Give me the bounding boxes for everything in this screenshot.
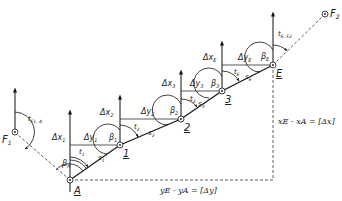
equation-dx: xE - xA = [Δx] <box>278 117 336 126</box>
line-E-F2 <box>273 17 322 65</box>
svg-text:t1: t1 <box>79 148 85 157</box>
svg-text:t2: t2 <box>134 123 140 132</box>
svg-text:tE, F2: tE, F2 <box>278 30 292 39</box>
svg-text:t3: t3 <box>190 95 196 104</box>
point-A <box>67 177 73 183</box>
beta-labels: βA β1 β2 β3 βE <box>61 52 270 169</box>
svg-text:β3: β3 <box>210 79 219 89</box>
traverse-diagram: F1 A 1 2 3 E F2 βA β1 β2 β3 βE tF1, A t1… <box>0 0 342 201</box>
bearing-labels: tF1, A t1 t2 t3 tE tE, F2 <box>28 30 292 157</box>
svg-text:Δy1: Δy1 <box>83 133 97 143</box>
north-arrows <box>15 14 273 192</box>
point-F2 <box>322 11 328 17</box>
label-2: 2 <box>184 122 190 133</box>
label-1: 1 <box>123 148 129 159</box>
label-A: A <box>73 185 81 196</box>
leg-s1 <box>70 145 120 180</box>
svg-text:s3: s3 <box>198 100 205 109</box>
delta-lines <box>70 65 273 145</box>
svg-text:Δx2: Δx2 <box>99 108 113 118</box>
svg-text:β1: β1 <box>108 133 117 143</box>
svg-text:ΔyE: ΔyE <box>237 53 252 63</box>
equation-dy: yE - yA = [Δy] <box>159 186 218 195</box>
label-F2: F2 <box>330 8 340 20</box>
label-F1: F1 <box>2 134 12 146</box>
svg-text:sE: sE <box>245 73 252 82</box>
label-3: 3 <box>225 94 231 105</box>
svg-text:Δx3: Δx3 <box>161 79 175 89</box>
svg-text:ΔxE: ΔxE <box>202 53 217 63</box>
svg-text:Δx1: Δx1 <box>51 133 65 143</box>
svg-text:Δy3: Δy3 <box>189 79 203 89</box>
dashed-lines <box>18 17 322 180</box>
label-E: E <box>276 68 283 79</box>
svg-text:tF1, A: tF1, A <box>28 115 42 124</box>
svg-text:βE: βE <box>260 52 270 62</box>
svg-text:β2: β2 <box>169 106 178 116</box>
point-F1 <box>12 129 18 135</box>
svg-text:tE: tE <box>234 68 240 77</box>
svg-text:s1: s1 <box>98 154 105 163</box>
